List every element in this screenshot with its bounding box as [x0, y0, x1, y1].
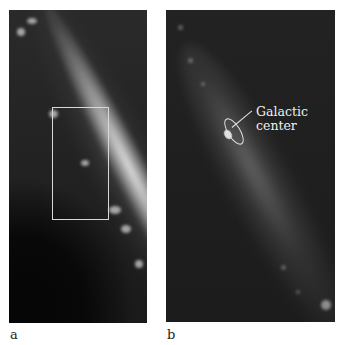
bright-knot [178, 25, 183, 30]
panel-a-image [9, 10, 147, 323]
bright-knot [296, 290, 300, 294]
inset-region-box [52, 107, 109, 220]
annotation-line-2: center [256, 119, 308, 133]
bright-knot [321, 300, 331, 310]
annotation-line-1: Galactic [256, 105, 308, 119]
bright-knot [27, 18, 37, 24]
bright-knot [201, 82, 205, 86]
panel-label-a: a [10, 327, 18, 342]
bright-knot [281, 265, 286, 270]
panel-label-b: b [167, 327, 175, 342]
panel-b-image: Galactic center [166, 10, 335, 322]
bright-knot [17, 28, 25, 36]
galactic-plane-band [166, 28, 335, 322]
bright-knot [121, 225, 131, 233]
bright-knot [188, 58, 193, 63]
bright-knot [135, 260, 143, 268]
galactic-center-annotation: Galactic center [256, 105, 308, 133]
bright-knot [109, 206, 121, 214]
